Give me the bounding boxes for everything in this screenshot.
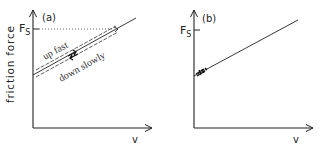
- direction-arrows-icon: [68, 50, 78, 60]
- friction-force-diagram: (a) FS friction force v up fast down slo…: [0, 0, 322, 151]
- annotation-up-fast: up fast: [41, 39, 70, 62]
- panel-a: (a) FS friction force v up fast down slo…: [4, 10, 152, 145]
- panel-b: (b) FS v: [180, 10, 313, 145]
- y-axis-label: friction force: [4, 25, 16, 103]
- fs-label: FS: [19, 22, 30, 37]
- panel-label: (a): [42, 12, 56, 23]
- fs-label: FS: [180, 24, 191, 39]
- x-axis-label: v: [132, 134, 138, 145]
- friction-line: [194, 20, 298, 76]
- x-axis-label: v: [293, 134, 299, 145]
- panel-label: (b): [202, 13, 216, 24]
- annotation-down-slowly: down slowly: [57, 49, 107, 84]
